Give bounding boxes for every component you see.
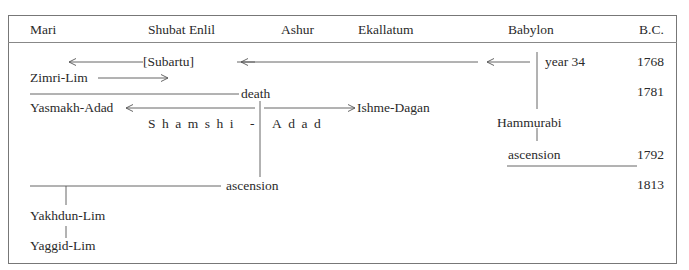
label-subartu: [Subartu] [143, 54, 194, 70]
year-1781: 1781 [637, 84, 664, 100]
label-shamshi-adad-dash: - [250, 116, 255, 132]
label-yakhdun-lim: Yakhdun-Lim [30, 208, 105, 224]
year-1813: 1813 [637, 177, 664, 193]
label-yasmakh-adad: Yasmakh-Adad [30, 100, 113, 116]
year-1768: 1768 [637, 54, 664, 70]
label-death: death [241, 86, 270, 102]
label-shamshi-ascension: ascension [226, 178, 278, 194]
label-ishme-dagan: Ishme-Dagan [357, 100, 430, 116]
label-zimri-lim: Zimri-Lim [30, 70, 88, 86]
label-yaggid-lim: Yaggid-Lim [30, 238, 95, 254]
label-hammurabi: Hammurabi [497, 115, 561, 131]
label-shamshi: Shamshi [148, 116, 240, 132]
label-year-34: year 34 [545, 54, 585, 70]
year-1792: 1792 [637, 147, 664, 163]
label-adad: Adad [272, 116, 327, 132]
label-hammurabi-ascension: ascension [508, 147, 560, 163]
diagram-lines [0, 0, 689, 270]
